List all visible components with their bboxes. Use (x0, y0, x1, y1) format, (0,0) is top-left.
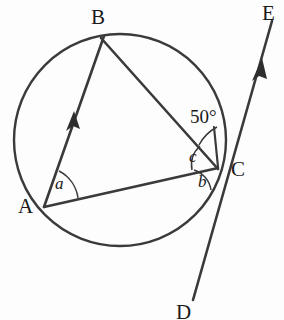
geometry-diagram: A B C D E a b c 50° (0, 0, 284, 320)
point-label-e: E (262, 3, 275, 24)
angle-label-a: a (55, 175, 64, 192)
point-label-a: A (18, 196, 33, 217)
point-label-c: C (231, 159, 245, 180)
point-label-d: D (176, 302, 191, 320)
angle-label-c: c (189, 148, 197, 165)
chord-ac (44, 168, 218, 207)
chord-bc (101, 38, 218, 169)
angle-label-b: b (198, 173, 207, 190)
point-label-b: B (91, 7, 105, 28)
angle-label-50-degrees: 50° (190, 107, 217, 126)
circle-shape (14, 34, 226, 246)
angle-tick-50 (214, 127, 218, 167)
